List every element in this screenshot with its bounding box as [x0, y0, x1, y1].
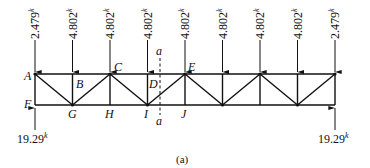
load-label-0: 2.479k	[27, 8, 42, 39]
load-label-5: 4.802k	[215, 8, 230, 39]
load-labels: 2.479k 4.802k 4.802k 4.802k 4.802k 4.802…	[27, 8, 342, 39]
load-arrows	[35, 40, 335, 72]
figure-caption: (a)	[176, 153, 189, 166]
node-label-D: D	[148, 77, 158, 91]
right-reaction-label: 19.29k	[318, 131, 349, 146]
node-label-F: F	[23, 97, 32, 111]
load-label-1: 4.802k	[65, 8, 80, 39]
load-label-2: 4.802k	[102, 8, 117, 39]
load-label-6: 4.802k	[252, 8, 267, 39]
truss-diagram: a a 2.479k 4.802k 4.802k 4.802k 4.802k 4…	[0, 0, 370, 168]
load-label-3: 4.802k	[140, 8, 155, 39]
node-label-C: C	[114, 60, 123, 74]
section-cut-label-top: a	[156, 44, 162, 58]
node-label-H: H	[104, 107, 115, 121]
node-label-E: E	[187, 60, 196, 74]
section-cut-label-bottom: a	[156, 114, 162, 128]
node-label-I: I	[143, 107, 149, 121]
node-label-G: G	[68, 107, 77, 121]
node-label-B: B	[76, 77, 84, 91]
load-label-8: 2.479k	[327, 8, 342, 39]
load-label-7: 4.802k	[290, 8, 305, 39]
left-reaction-label: 19.29k	[17, 131, 48, 146]
load-label-4: 4.802k	[177, 8, 192, 39]
node-label-J: J	[181, 107, 187, 121]
node-label-A: A	[23, 69, 32, 83]
